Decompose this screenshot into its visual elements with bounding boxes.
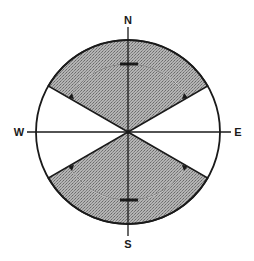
north-label: N [124, 14, 132, 26]
west-label: W [14, 126, 25, 138]
compass-diagram: N S W E [0, 0, 254, 261]
south-label: S [124, 238, 131, 250]
east-label: E [234, 126, 241, 138]
center-point [126, 130, 130, 134]
north-arc-center-marker [120, 63, 138, 66]
south-arc-center-marker [120, 199, 138, 202]
